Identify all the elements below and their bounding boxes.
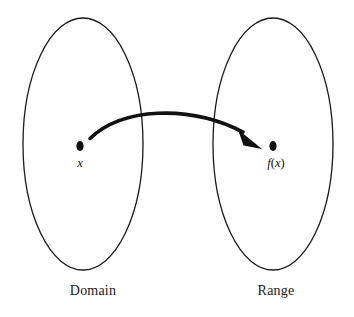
x-point-label: x	[77, 156, 83, 171]
fx-point-label: f(x)	[267, 156, 284, 171]
domain-set-label: Domain	[70, 283, 116, 299]
mapping-arrow-shaft	[90, 113, 243, 138]
fx-point-dot	[269, 141, 276, 151]
x-point-dot	[76, 141, 83, 151]
diagram-canvas	[0, 0, 354, 317]
range-set-label: Range	[258, 283, 295, 299]
fx-label-close-paren: )	[281, 156, 285, 170]
x-point-label-text: x	[77, 156, 83, 170]
function-mapping-diagram: x f(x) Domain Range	[0, 0, 354, 317]
